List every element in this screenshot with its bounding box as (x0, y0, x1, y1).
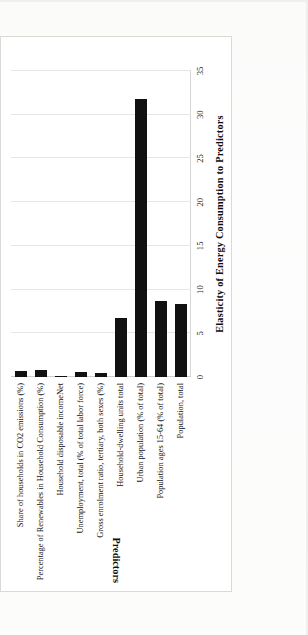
tick-label: 30 (195, 110, 205, 119)
bar (135, 98, 147, 376)
category-label: Household disposable incomeNet (57, 383, 65, 496)
bar (35, 370, 47, 377)
category-label: Population ages 15-64 (% of total) (157, 383, 165, 499)
bar (155, 300, 167, 376)
tick-label: 0 (195, 374, 205, 378)
category-label: Share of households in CO2 emissions (%) (17, 383, 25, 527)
gridline (11, 244, 191, 245)
value-axis-title: Elasticity of Energy Consumption to Pred… (214, 71, 225, 377)
tick-label: 20 (195, 197, 205, 206)
bar (75, 371, 87, 376)
category-label: Urban population (% of total) (137, 383, 145, 483)
bar (95, 372, 107, 376)
bar (15, 370, 27, 376)
category-label: Population, total (177, 383, 185, 438)
tick-label: 35 (195, 66, 205, 75)
category-label: Unemployment, total (% of total labor fo… (77, 383, 85, 533)
category-axis-line (190, 71, 191, 377)
tick-label: 10 (195, 285, 205, 294)
gridline (11, 70, 191, 71)
page-edge-top (0, 0, 308, 2)
gridline (11, 288, 191, 289)
gridline (11, 113, 191, 114)
tick-label: 15 (195, 241, 205, 250)
tick-label: 5 (195, 331, 205, 335)
chart-frame: Share of households in CO2 emissions (%)… (0, 36, 232, 592)
page-edge-right (306, 0, 308, 635)
bar (55, 375, 67, 376)
category-label: Percentage of Renewables in Household Co… (37, 383, 45, 580)
scanned-page: Share of households in CO2 emissions (%)… (0, 0, 308, 635)
plot-area (11, 71, 191, 377)
bar (115, 318, 127, 377)
bar (175, 303, 187, 376)
figure-elasticity-sweden: Share of households in CO2 emissions (%)… (0, 32, 240, 592)
tick-label: 25 (195, 154, 205, 163)
category-axis-title: Predictors (111, 537, 122, 583)
category-label: Household-dwelling units total (117, 383, 125, 487)
category-label: Gross enrolment ratio, tertiary, both se… (97, 383, 105, 538)
gridline (11, 201, 191, 202)
gridline (11, 157, 191, 158)
